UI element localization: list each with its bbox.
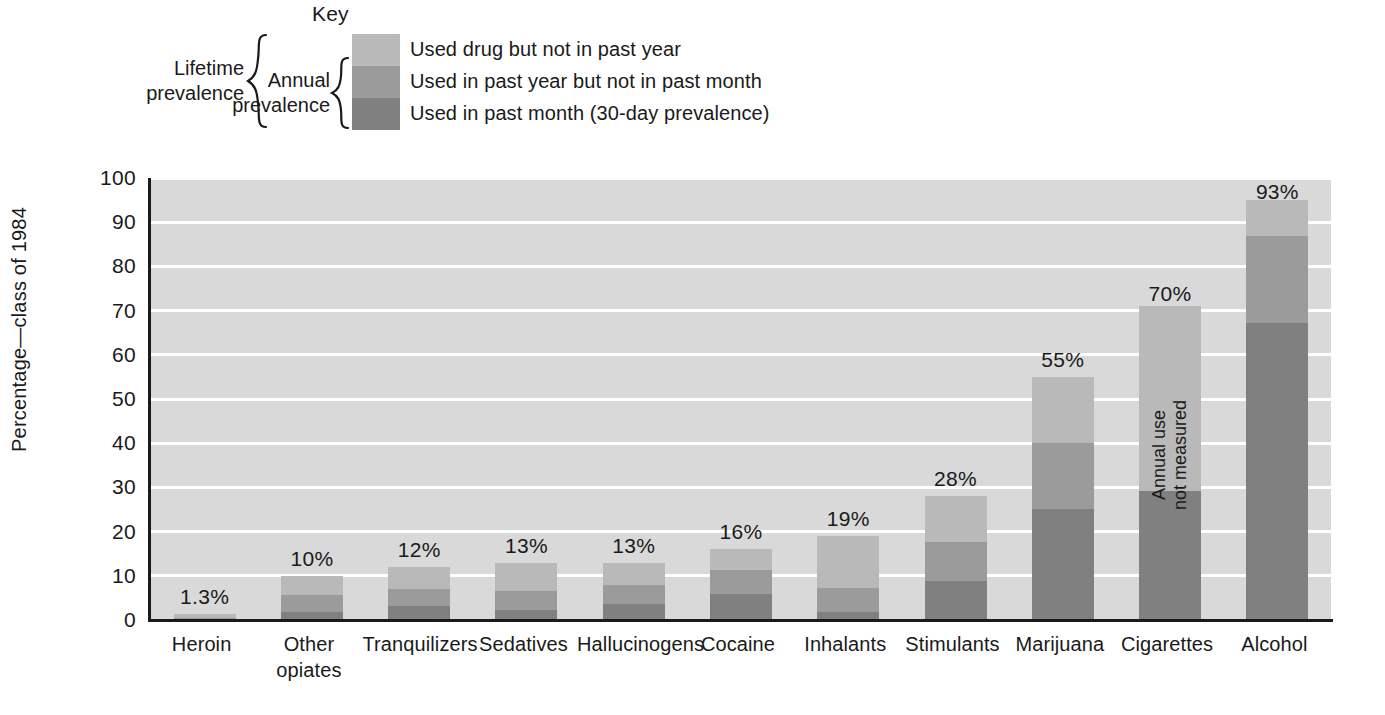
y-axis-tick-label: 0 xyxy=(124,608,136,632)
bar-segment xyxy=(388,589,450,606)
x-axis-tick-label: Tranquilizers xyxy=(363,631,470,657)
y-axis-tick-label: 90 xyxy=(112,210,136,234)
bar-segment xyxy=(817,588,879,612)
bar-value-label: 1.3% xyxy=(180,585,229,609)
y-axis-tick-label: 70 xyxy=(112,299,136,323)
bar-segment xyxy=(388,606,450,620)
y-axis-title: Percentage—class of 1984 xyxy=(8,180,31,480)
x-axis-tick-label-line: Tranquilizers xyxy=(363,631,470,657)
x-axis-tick-label-line: Sedatives xyxy=(470,631,577,657)
bar-group[interactable]: 13% xyxy=(495,178,557,620)
bar-annotation-line2: not measured xyxy=(1170,400,1191,510)
bar-segment xyxy=(925,581,987,620)
y-axis-tick-label: 100 xyxy=(100,166,136,190)
x-axis-tick-label-line: Inhalants xyxy=(792,631,899,657)
bar[interactable] xyxy=(710,549,772,620)
bar-value-label: 55% xyxy=(1041,348,1084,372)
x-axis-tick-label-line: Alcohol xyxy=(1221,631,1328,657)
bar-group[interactable]: 16% xyxy=(710,178,772,620)
y-axis-tick-label: 40 xyxy=(112,431,136,455)
bar-segment xyxy=(174,614,236,618)
x-axis-tick-label: Inhalants xyxy=(792,631,899,657)
bar-value-label: 93% xyxy=(1256,180,1299,204)
bar-value-label: 70% xyxy=(1149,282,1192,306)
bar[interactable] xyxy=(495,563,557,620)
bar-value-label: 12% xyxy=(398,538,441,562)
x-axis-tick-label-line: Marijuana xyxy=(1006,631,1113,657)
y-axis-tick-label: 20 xyxy=(112,520,136,544)
x-axis-tick-label: Cocaine xyxy=(684,631,791,657)
bar[interactable] xyxy=(817,536,879,620)
x-axis-tick-label-line: Cocaine xyxy=(684,631,791,657)
bar-value-label: 16% xyxy=(720,520,763,544)
bar-group[interactable]: 1.3% xyxy=(174,178,236,620)
x-axis-tick-label: Sedatives xyxy=(470,631,577,657)
bar-segment xyxy=(925,542,987,581)
y-axis-ticks: 0102030405060708090100 xyxy=(78,178,136,620)
bar-segment xyxy=(603,585,665,604)
bar-group[interactable]: 55% xyxy=(1032,178,1094,620)
x-axis-tick-label: Marijuana xyxy=(1006,631,1113,657)
bar-value-label: 10% xyxy=(290,547,333,571)
bar-segment xyxy=(1246,323,1308,620)
x-axis-tick-label-line: Heroin xyxy=(148,631,255,657)
bar-segment xyxy=(495,591,557,610)
plot-area: 1.3%10%12%13%13%16%19%28%55%70%Annual us… xyxy=(148,178,1331,620)
y-axis-tick-label: 30 xyxy=(112,475,136,499)
bar[interactable] xyxy=(1032,377,1094,620)
bar-group[interactable]: 28% xyxy=(925,178,987,620)
bar[interactable] xyxy=(603,563,665,620)
x-axis-line xyxy=(148,619,1333,622)
x-axis-tick-label-line: Hallucinogens xyxy=(577,631,684,657)
bar[interactable] xyxy=(1246,209,1308,620)
bar-segment xyxy=(710,594,772,620)
x-axis-tick-label: Cigarettes xyxy=(1113,631,1220,657)
bar-segment xyxy=(710,549,772,570)
bar[interactable] xyxy=(281,576,343,620)
x-axis-tick-label: Stimulants xyxy=(899,631,1006,657)
bar[interactable] xyxy=(388,567,450,620)
bar-segment xyxy=(1032,509,1094,620)
x-axis-tick-label: Heroin xyxy=(148,631,255,657)
x-axis-tick-label: Otheropiates xyxy=(255,631,362,683)
x-axis-tick-label-line: Stimulants xyxy=(899,631,1006,657)
bar-segment xyxy=(388,567,450,589)
bar[interactable] xyxy=(925,496,987,620)
bar-group[interactable]: 93% xyxy=(1246,178,1308,620)
y-axis-tick-label: 80 xyxy=(112,254,136,278)
x-axis-tick-label-line: Other xyxy=(255,631,362,657)
bar-value-label: 19% xyxy=(827,507,870,531)
bar-segment xyxy=(603,604,665,620)
x-axis-tick-label: Alcohol xyxy=(1221,631,1328,657)
y-axis-tick-label: 10 xyxy=(112,564,136,588)
bar-group[interactable]: 19% xyxy=(817,178,879,620)
bar-value-label: 13% xyxy=(612,534,655,558)
bar-group[interactable]: 12% xyxy=(388,178,450,620)
bar-segment xyxy=(1246,200,1308,236)
bar-segment xyxy=(817,536,879,588)
bar-segment xyxy=(495,563,557,591)
bar-value-label: 28% xyxy=(934,467,977,491)
y-axis-tick-label: 60 xyxy=(112,343,136,367)
bar-group[interactable]: 13% xyxy=(603,178,665,620)
bar-value-label: 13% xyxy=(505,534,548,558)
x-axis-tick-label-line: opiates xyxy=(255,657,362,683)
bar-segment xyxy=(1032,443,1094,508)
bar-segment xyxy=(925,496,987,542)
bar-segment xyxy=(1246,236,1308,323)
bar-segment xyxy=(281,595,343,612)
x-axis-tick-label: Hallucinogens xyxy=(577,631,684,657)
x-axis-tick-label-line: Cigarettes xyxy=(1113,631,1220,657)
bar-annotation-line1: Annual use xyxy=(1149,400,1170,510)
bar-group[interactable]: 10% xyxy=(281,178,343,620)
bar-segment xyxy=(710,570,772,594)
stacked-bar-chart: Percentage—class of 1984 010203040506070… xyxy=(0,0,1385,715)
bar-group[interactable]: 70%Annual usenot measured xyxy=(1139,178,1201,620)
bar-segment xyxy=(1032,377,1094,443)
y-axis-tick-label: 50 xyxy=(112,387,136,411)
bar-annotation: Annual usenot measured xyxy=(1149,400,1191,510)
bar-segment xyxy=(281,576,343,595)
bar-segment xyxy=(603,563,665,586)
